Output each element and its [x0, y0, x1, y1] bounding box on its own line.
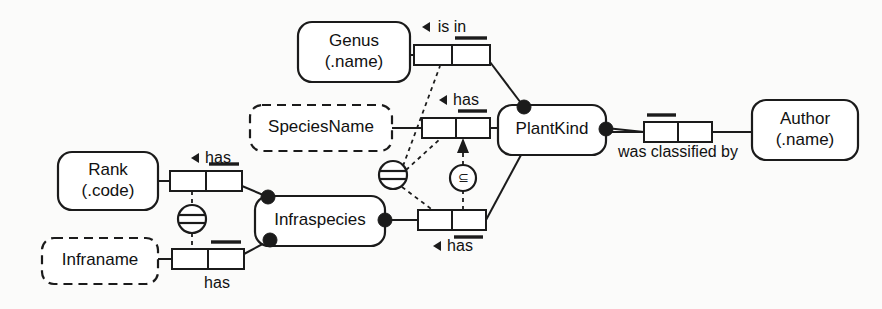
entity-genus-label: Genus [329, 31, 379, 50]
equality-constraint-icon-left[interactable] [178, 205, 206, 233]
fact-type-rank-has[interactable]: has [170, 149, 242, 191]
fact-type-infraname-has[interactable]: has [172, 242, 244, 291]
predicate-label-rank-has: has [205, 149, 231, 166]
predicate-label-was-classified-by: was classified by [617, 143, 738, 160]
constraint-link-has-species [406, 139, 440, 170]
value-type-infraname-label: Infraname [62, 250, 139, 269]
fact-type-infraspecies-has-plantkind[interactable]: has [418, 210, 486, 254]
predicate-arrow-icon [439, 95, 447, 105]
fact-type-plantkind-has-speciesname[interactable]: has [422, 91, 490, 138]
constraint-link-lowerhas [402, 187, 434, 211]
mandatory-dot-icon-plantkind-top [517, 100, 531, 114]
entity-author-label: Author [780, 109, 830, 128]
predicate-label-lower-has: has [447, 237, 473, 254]
connector-lowerhas-plantkind [486, 155, 521, 220]
predicate-arrow-icon [433, 241, 441, 251]
value-type-species-name[interactable]: SpeciesName [250, 105, 392, 151]
entity-infraspecies-label: Infraspecies [274, 210, 366, 229]
entity-rank[interactable]: Rank (.code) [58, 152, 158, 210]
value-type-species-name-label: SpeciesName [268, 117, 374, 136]
fact-type-is-in[interactable]: is in [414, 18, 490, 65]
constraint-equality-middle[interactable] [379, 161, 407, 189]
mandatory-dot-icon-infraspecies-bottom [263, 233, 277, 247]
subset-symbol-icon: ⊆ [458, 170, 469, 185]
predicate-arrow-icon [191, 153, 199, 163]
value-type-infraname[interactable]: Infraname [42, 238, 158, 284]
orm-diagram: is in has has has [0, 0, 882, 309]
entity-rank-label: Rank [88, 160, 128, 179]
entity-genus[interactable]: Genus (.name) [298, 22, 410, 82]
constraint-subset[interactable]: ⊆ [450, 165, 476, 191]
entity-rank-reference: (.code) [82, 181, 135, 200]
orm-diagram-canvas: is in has has has [0, 0, 882, 309]
entity-genus-reference: (.name) [325, 52, 384, 71]
entity-plantkind[interactable]: PlantKind [498, 105, 606, 155]
entity-author-reference: (.name) [776, 130, 835, 149]
predicate-label-is-in: is in [438, 18, 466, 35]
mandatory-dot-icon-infraspecies-right [378, 213, 392, 227]
predicate-arrow-icon [422, 22, 430, 32]
mandatory-dot-icon-plantkind-right [599, 122, 613, 136]
equality-constraint-icon-middle[interactable] [379, 161, 407, 189]
subset-arrowhead-icon [457, 138, 469, 153]
connector-isin-plantkind [490, 62, 524, 107]
entity-author[interactable]: Author (.name) [752, 100, 858, 160]
constraint-equality-left[interactable] [178, 205, 206, 233]
fact-type-was-classified-by[interactable]: was classified by [617, 115, 738, 160]
mandatory-dot-icon-infraspecies-top [261, 190, 275, 204]
entity-plantkind-label: PlantKind [516, 119, 589, 138]
predicate-label-has-speciesname: has [453, 91, 479, 108]
predicate-label-infraname-has: has [204, 274, 230, 291]
constraint-link-isin [403, 66, 440, 166]
